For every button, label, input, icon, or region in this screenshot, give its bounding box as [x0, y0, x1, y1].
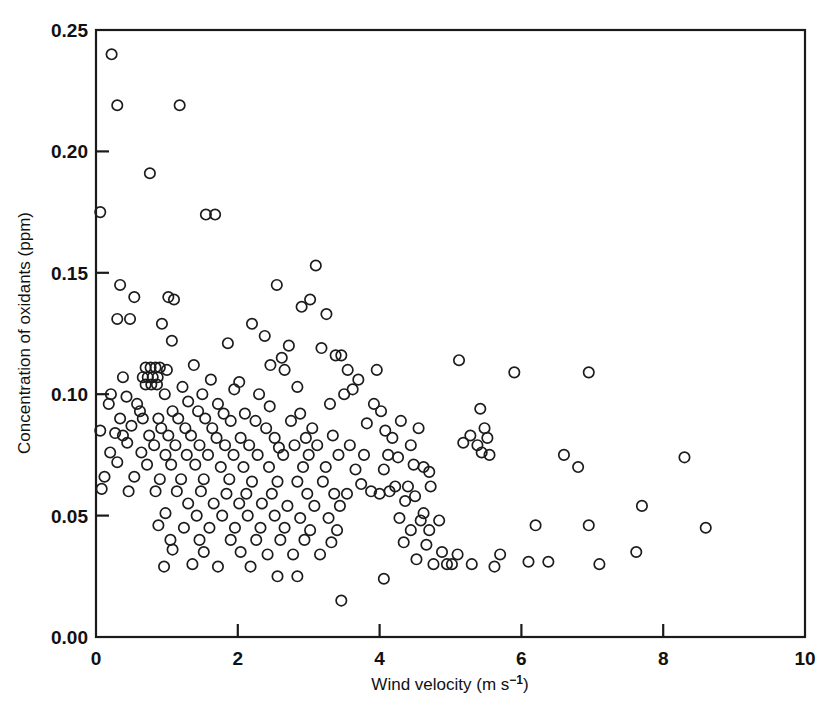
- data-point: [144, 430, 154, 440]
- data-point: [163, 430, 173, 440]
- chart-canvas: Concentration of oxidants (ppm) 0.000.05…: [0, 0, 830, 711]
- data-point: [454, 355, 464, 365]
- data-point: [234, 377, 244, 387]
- data-point: [230, 523, 240, 533]
- data-point: [458, 438, 468, 448]
- data-point: [187, 559, 197, 569]
- x-tick-label: 0: [91, 648, 102, 669]
- data-point: [584, 520, 594, 530]
- data-point: [153, 413, 163, 423]
- data-point: [262, 549, 272, 559]
- data-point: [196, 486, 206, 496]
- x-tick-label: 2: [233, 648, 244, 669]
- data-point: [295, 408, 305, 418]
- data-point: [530, 520, 540, 530]
- data-point: [298, 462, 308, 472]
- data-point: [157, 319, 167, 329]
- x-axis-tick-labels: 0246810: [91, 648, 816, 669]
- data-point: [213, 561, 223, 571]
- data-point: [105, 447, 115, 457]
- data-point: [162, 365, 172, 375]
- data-point: [182, 450, 192, 460]
- data-point: [434, 515, 444, 525]
- x-axis-title-base: Wind velocity (m s: [371, 675, 509, 694]
- data-point: [631, 547, 641, 557]
- data-point: [403, 481, 413, 491]
- data-point: [296, 302, 306, 312]
- data-point: [393, 452, 403, 462]
- data-point: [325, 399, 335, 409]
- data-point: [160, 450, 170, 460]
- data-point: [679, 452, 689, 462]
- data-point: [167, 336, 177, 346]
- data-point: [282, 501, 292, 511]
- data-point: [421, 540, 431, 550]
- data-point: [142, 459, 152, 469]
- y-axis-title: Concentration of oxidants (ppm): [15, 212, 34, 454]
- data-point: [247, 476, 257, 486]
- data-point: [217, 510, 227, 520]
- data-point: [125, 314, 135, 324]
- data-point: [323, 513, 333, 523]
- data-point: [475, 404, 485, 414]
- data-point: [216, 462, 226, 472]
- data-point: [197, 389, 207, 399]
- data-point: [292, 571, 302, 581]
- data-point: [372, 365, 382, 375]
- x-tick-label: 10: [794, 648, 815, 669]
- data-point: [396, 416, 406, 426]
- data-point: [250, 416, 260, 426]
- data-point: [342, 489, 352, 499]
- data-point: [380, 425, 390, 435]
- data-point: [174, 100, 184, 110]
- data-point: [206, 374, 216, 384]
- y-tick-label: 0.25: [51, 20, 88, 41]
- data-point: [305, 525, 315, 535]
- data-point: [573, 462, 583, 472]
- data-point: [339, 389, 349, 399]
- data-point: [272, 571, 282, 581]
- data-point: [244, 440, 254, 450]
- data-point: [235, 547, 245, 557]
- data-point: [191, 510, 201, 520]
- y-tick-label: 0.10: [51, 384, 88, 405]
- data-point: [272, 476, 282, 486]
- data-point: [312, 440, 322, 450]
- data-point: [104, 399, 114, 409]
- data-point: [224, 474, 234, 484]
- data-point: [238, 462, 248, 472]
- data-point: [437, 547, 447, 557]
- data-point: [335, 501, 345, 511]
- data-point: [495, 549, 505, 559]
- data-point: [126, 421, 136, 431]
- data-point: [173, 413, 183, 423]
- y-tick-label: 0.00: [51, 627, 88, 648]
- data-point: [350, 464, 360, 474]
- data-point: [286, 416, 296, 426]
- data-point: [166, 459, 176, 469]
- data-point: [353, 374, 363, 384]
- data-point: [265, 360, 275, 370]
- data-point: [336, 595, 346, 605]
- data-point: [269, 510, 279, 520]
- data-point: [428, 559, 438, 569]
- data-point: [183, 396, 193, 406]
- plot-frame: [96, 30, 805, 637]
- data-point: [342, 365, 352, 375]
- data-point: [264, 462, 274, 472]
- data-point: [394, 513, 404, 523]
- data-point: [584, 367, 594, 377]
- data-point: [118, 372, 128, 382]
- data-point: [112, 314, 122, 324]
- data-point: [186, 430, 196, 440]
- data-point: [261, 423, 271, 433]
- data-point: [292, 382, 302, 392]
- data-point: [452, 549, 462, 559]
- data-point: [115, 280, 125, 290]
- data-point: [234, 498, 244, 508]
- data-point: [229, 384, 239, 394]
- data-point: [167, 544, 177, 554]
- data-point: [96, 484, 106, 494]
- data-point: [251, 535, 261, 545]
- data-point: [245, 561, 255, 571]
